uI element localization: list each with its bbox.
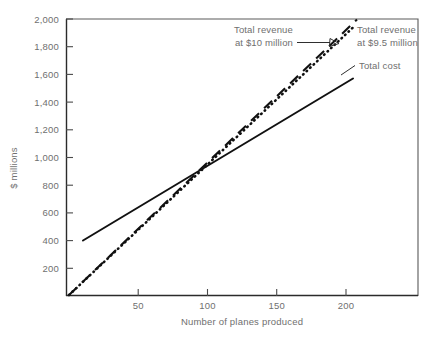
y-tick-label: 1,800	[34, 41, 59, 52]
annotation-revenue-10: Total revenue at $10 million	[234, 24, 339, 48]
y-tick-label: 1,600	[34, 69, 59, 80]
annotation-total-cost-label: Total cost	[359, 60, 401, 71]
series-line-total-revenue-9-5-million	[69, 28, 353, 296]
x-tick-label: 50	[133, 300, 144, 311]
y-axis-title: $ millions	[8, 147, 19, 189]
annotation-revenue-10-line2: at $10 million	[235, 37, 293, 48]
annotation-total-cost: Total cost	[341, 60, 401, 75]
chart-container: 200 400 600 800 1,000 1,200 1,400 1,600 …	[0, 0, 438, 341]
y-tick-label: 400	[43, 235, 59, 246]
x-axis-tick-labels: 50 100 150 200	[133, 300, 355, 311]
line-chart: 200 400 600 800 1,000 1,200 1,400 1,600 …	[0, 0, 438, 341]
y-tick-label: 1,000	[34, 152, 59, 163]
y-tick-label: 200	[43, 263, 59, 274]
x-axis-title: Number of planes produced	[181, 316, 303, 327]
annotation-revenue-95-line1: Total revenue	[357, 24, 416, 35]
y-tick-label: 600	[43, 207, 59, 218]
annotation-revenue-95: Total revenue at $9.5 million	[357, 24, 418, 48]
x-tick-label: 200	[338, 300, 354, 311]
series-line-total-cost	[83, 79, 353, 241]
y-tick-label: 1,200	[34, 124, 59, 135]
annotation-revenue-95-line2: at $9.5 million	[357, 37, 418, 48]
x-tick-label: 150	[268, 300, 284, 311]
y-tick-label: 800	[43, 180, 59, 191]
annotation-total-cost-leader	[341, 66, 355, 76]
annotation-revenue-10-line1: Total revenue	[234, 24, 293, 35]
y-tick-label: 2,000	[34, 14, 59, 25]
series-line-total-revenue-10-million	[69, 20, 357, 296]
y-tick-label: 1,400	[34, 97, 59, 108]
x-tick-label: 100	[199, 300, 215, 311]
y-axis-tick-labels: 200 400 600 800 1,000 1,200 1,400 1,600 …	[34, 14, 59, 274]
